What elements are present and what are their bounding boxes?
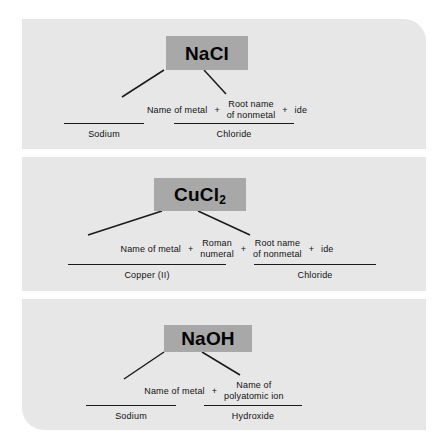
rule-term-name-of-metal: Name of metal bbox=[144, 386, 204, 397]
rule-row-cucl2: Name of metal + Roman numeral + Root nam… bbox=[32, 235, 422, 263]
answer-label-hydroxide: Hydroxide bbox=[204, 411, 302, 421]
answer-underline bbox=[204, 405, 302, 406]
answer-group-copper-ii: Copper (II) bbox=[68, 264, 226, 280]
answer-underline bbox=[68, 264, 226, 265]
answer-underline bbox=[174, 123, 294, 124]
answer-label-chloride: Chloride bbox=[174, 129, 294, 139]
naming-ionic-compounds-diagram: NaCl Name of metal + Root name of nonmet… bbox=[0, 0, 448, 447]
answer-label-copper-ii: Copper (II) bbox=[68, 270, 226, 280]
rule-term-root-name-of-nonmetal: Root name of nonmetal bbox=[253, 238, 302, 259]
plus-sign: + bbox=[207, 105, 226, 115]
answer-group-sodium: Sodium bbox=[86, 405, 176, 421]
rule-term-root-name-of-nonmetal: Root name of nonmetal bbox=[227, 99, 276, 120]
plus-sign: + bbox=[275, 105, 294, 115]
plus-sign: + bbox=[234, 244, 253, 254]
plus-sign: + bbox=[302, 244, 321, 254]
formula-label-naoh: NaOH bbox=[181, 329, 235, 348]
formula-label-nacl: NaCl bbox=[185, 44, 229, 63]
answer-underline bbox=[254, 264, 376, 265]
answer-underline bbox=[64, 123, 144, 124]
answer-group-sodium: Sodium bbox=[64, 123, 144, 139]
panel-naoh: NaOH Name of metal + Name of polyatomic … bbox=[22, 299, 426, 430]
panel-nacl: NaCl Name of metal + Root name of nonmet… bbox=[22, 19, 426, 149]
rule-term-ide: ide bbox=[321, 244, 333, 255]
rule-term-name-of-metal: Name of metal bbox=[120, 244, 180, 255]
answer-label-sodium: Sodium bbox=[86, 411, 176, 421]
formula-chip-cucl2: CuCl2 bbox=[154, 178, 246, 211]
rule-term-name-of-polyatomic-ion: Name of polyatomic ion bbox=[224, 380, 284, 401]
formula-label-cucl2: CuCl2 bbox=[174, 185, 226, 204]
rule-term-ide: ide bbox=[295, 105, 307, 116]
rule-row-nacl: Name of metal + Root name of nonmetal + … bbox=[62, 97, 392, 123]
answer-group-hydroxide: Hydroxide bbox=[204, 405, 302, 421]
formula-subscript: 2 bbox=[219, 193, 226, 207]
rule-row-naoh: Name of metal + Name of polyatomic ion bbox=[64, 378, 364, 404]
plus-sign: + bbox=[205, 386, 224, 396]
formula-chip-nacl: NaCl bbox=[166, 36, 248, 70]
answer-label-sodium: Sodium bbox=[64, 129, 144, 139]
formula-chip-naoh: NaOH bbox=[164, 325, 252, 352]
rule-term-name-of-metal: Name of metal bbox=[147, 105, 207, 116]
answer-label-chloride: Chloride bbox=[254, 270, 376, 280]
panel-cucl2: CuCl2 Name of metal + Roman numeral + Ro… bbox=[22, 157, 426, 291]
plus-sign: + bbox=[181, 244, 200, 254]
formula-main-text: CuCl bbox=[174, 184, 219, 205]
rule-term-roman-numeral: Roman numeral bbox=[200, 238, 234, 259]
answer-underline bbox=[86, 405, 176, 406]
answer-group-chloride: Chloride bbox=[254, 264, 376, 280]
answer-group-chloride: Chloride bbox=[174, 123, 294, 139]
